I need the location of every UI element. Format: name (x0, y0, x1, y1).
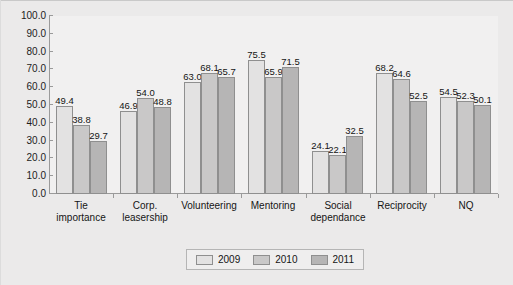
y-tick-label: 80.0 (27, 46, 46, 57)
y-tick-mark (49, 51, 53, 52)
x-axis-separator-tick (370, 194, 371, 198)
x-axis-separator-tick (498, 194, 499, 198)
bar-chart: 100.090.080.070.060.050.040.030.020.010.… (0, 0, 513, 285)
y-tick-label: 90.0 (27, 28, 46, 39)
y-tick-label: 50.0 (27, 99, 46, 110)
x-axis-separator-tick (241, 194, 242, 198)
bar[interactable]: 68.1 (201, 73, 218, 194)
y-tick-mark (49, 175, 53, 176)
y-tick-label: 70.0 (27, 63, 46, 74)
y-tick-label: 10.0 (27, 170, 46, 181)
y-tick-label: 0.0 (32, 188, 46, 199)
bar[interactable]: 49.4 (56, 106, 73, 194)
legend-label: 2009 (218, 254, 240, 265)
bar-value-label: 48.8 (153, 97, 172, 107)
bar-value-label: 50.1 (473, 95, 492, 105)
y-tick: 20.0 (0, 152, 56, 163)
x-axis-separator-tick (306, 194, 307, 198)
bar-value-label: 46.9 (119, 101, 138, 111)
bar-value-label: 52.5 (409, 91, 428, 101)
bar-value-label: 64.6 (392, 69, 411, 79)
bar[interactable]: 68.2 (376, 73, 393, 194)
bar[interactable]: 71.5 (282, 67, 299, 194)
y-tick: 70.0 (0, 63, 56, 74)
bar-value-label: 68.2 (375, 63, 394, 73)
y-tick: 80.0 (0, 46, 56, 57)
y-tick-label: 60.0 (27, 81, 46, 92)
bar[interactable]: 24.1 (312, 151, 329, 194)
legend-item[interactable]: 2009 (196, 254, 240, 265)
bar-group: 63.068.165.7 (184, 16, 235, 194)
bar-group: 54.552.350.1 (440, 16, 491, 194)
x-axis-separator-tick (434, 194, 435, 198)
bar[interactable]: 38.8 (73, 125, 90, 194)
bar-value-label: 52.3 (456, 91, 475, 101)
y-tick-label: 100.0 (21, 10, 46, 21)
bar[interactable]: 65.7 (218, 77, 235, 194)
y-tick: 90.0 (0, 28, 56, 39)
y-tick-mark (49, 33, 53, 34)
y-tick-mark (49, 122, 53, 123)
y-tick-label: 30.0 (27, 135, 46, 146)
legend-label: 2011 (333, 254, 355, 265)
bar-value-label: 75.5 (247, 50, 266, 60)
bar-value-label: 54.5 (439, 87, 458, 97)
bar-value-label: 71.5 (281, 57, 300, 67)
bar[interactable]: 54.5 (440, 97, 457, 194)
y-tick: 10.0 (0, 170, 56, 181)
y-tick: 0.0 (0, 188, 56, 199)
bar[interactable]: 64.6 (393, 79, 410, 194)
bar-group: 24.122.132.5 (312, 16, 363, 194)
y-tick: 50.0 (0, 99, 56, 110)
bar-value-label: 49.4 (55, 96, 74, 106)
legend-swatch (253, 255, 270, 265)
y-tick: 100.0 (0, 10, 56, 21)
legend-item[interactable]: 2010 (253, 254, 297, 265)
bar-value-label: 29.7 (89, 131, 108, 141)
y-tick-mark (49, 104, 53, 105)
legend-label: 2010 (275, 254, 297, 265)
bar[interactable]: 50.1 (474, 105, 491, 194)
y-tick: 40.0 (0, 117, 56, 128)
y-tick-mark (49, 68, 53, 69)
bar-value-label: 38.8 (72, 115, 91, 125)
bar[interactable]: 65.9 (265, 77, 282, 194)
y-tick-label: 20.0 (27, 152, 46, 163)
bar-value-label: 32.5 (345, 126, 364, 136)
bar-group: 49.438.829.7 (56, 16, 107, 194)
bar-group: 46.954.048.8 (120, 16, 171, 194)
x-axis-separator-tick (177, 194, 178, 198)
x-axis-separator-tick (113, 194, 114, 198)
frame-top-border (0, 0, 513, 1)
bar[interactable]: 46.9 (120, 111, 137, 194)
legend-item[interactable]: 2011 (311, 254, 355, 265)
bar[interactable]: 22.1 (329, 155, 346, 194)
y-tick-mark (49, 140, 53, 141)
bar[interactable]: 52.3 (457, 101, 474, 194)
y-tick-mark (49, 157, 53, 158)
bar-value-label: 24.1 (311, 141, 330, 151)
bar-value-label: 54.0 (136, 88, 155, 98)
bar-group: 75.565.971.5 (248, 16, 299, 194)
bar[interactable]: 63.0 (184, 82, 201, 194)
bar[interactable]: 52.5 (410, 101, 427, 194)
bar-value-label: 68.1 (200, 63, 219, 73)
y-tick-mark (49, 193, 53, 194)
bar[interactable]: 54.0 (137, 98, 154, 194)
y-tick: 30.0 (0, 135, 56, 146)
y-tick: 60.0 (0, 81, 56, 92)
legend-swatch (196, 255, 213, 265)
bar[interactable]: 75.5 (248, 60, 265, 194)
y-tick-label: 40.0 (27, 117, 46, 128)
y-tick-mark (49, 86, 53, 87)
bar[interactable]: 29.7 (90, 141, 107, 194)
bar-value-label: 65.9 (264, 67, 283, 77)
bar-value-label: 65.7 (217, 67, 236, 77)
x-axis-category-label: NQ (426, 200, 506, 212)
legend-swatch (311, 255, 328, 265)
bar[interactable]: 32.5 (346, 136, 363, 194)
bar-value-label: 22.1 (328, 145, 347, 155)
bar[interactable]: 48.8 (154, 107, 171, 194)
bar-group: 68.264.652.5 (376, 16, 427, 194)
bar-value-label: 63.0 (183, 72, 202, 82)
